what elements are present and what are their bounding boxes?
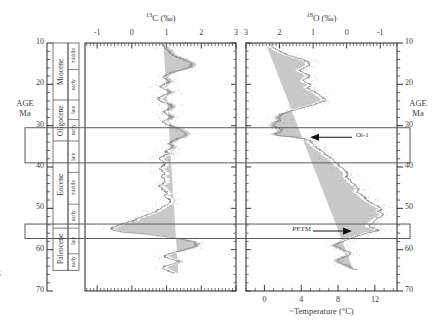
right-data-point <box>311 83 312 84</box>
right-data-point <box>365 233 366 234</box>
age-axis-title-right-1: AGE <box>400 99 436 108</box>
left-data-point <box>191 66 192 67</box>
right-data-point <box>385 231 386 232</box>
right-data-point <box>297 58 298 59</box>
right-data-point <box>356 173 357 174</box>
left-data-point <box>196 239 197 240</box>
right-data-point <box>352 186 353 187</box>
left-data-point <box>174 174 175 175</box>
left-data-point <box>202 241 203 242</box>
right-data-point <box>338 257 339 258</box>
left-data-point <box>152 208 153 209</box>
left-data-point <box>163 170 164 171</box>
left-data-point <box>168 106 169 107</box>
right-data-point <box>290 108 291 109</box>
left-data-point <box>185 69 186 70</box>
right-data-point <box>370 230 371 231</box>
age-tick-label-70: 70 <box>26 286 44 294</box>
right-data-point <box>362 200 363 201</box>
left-data-point <box>170 50 171 51</box>
left-data-point <box>136 217 137 218</box>
temp-tick-label-3: 12 <box>366 296 384 304</box>
left-data-point <box>169 195 170 196</box>
left-data-point <box>169 144 170 145</box>
left-data-point <box>136 220 137 221</box>
left-x-tick-label-1: 0 <box>123 29 141 37</box>
left-data-point <box>164 177 165 178</box>
left-data-point <box>166 206 167 207</box>
left-data-point <box>167 236 168 237</box>
right-data-point <box>293 107 294 108</box>
right-data-point <box>365 202 366 203</box>
left-data-point <box>179 149 180 150</box>
left-x-tick-label-2: 1 <box>158 29 176 37</box>
right-data-point <box>368 235 369 236</box>
left-data-point <box>176 53 177 54</box>
left-data-point <box>181 147 182 148</box>
right-data-point <box>351 265 352 266</box>
right-data-point <box>304 90 305 91</box>
left-data-point <box>171 191 172 192</box>
right-data-point <box>364 189 365 190</box>
right-data-point <box>286 116 287 117</box>
left-data-point <box>157 86 158 87</box>
left-data-point <box>192 66 193 67</box>
right-data-point <box>315 147 316 148</box>
left-data-point <box>200 247 201 248</box>
right-x-tick-label-2: 1 <box>304 29 322 37</box>
epoch-label-paleocene: Paleocene <box>57 227 65 271</box>
left-data-point <box>165 45 166 46</box>
left-data-point <box>147 211 148 212</box>
left-data-point <box>188 247 189 248</box>
right-data-point <box>314 60 315 61</box>
left-data-point <box>167 101 168 102</box>
right-data-point <box>309 91 310 92</box>
right-data-point <box>311 89 312 90</box>
right-data-point <box>322 98 323 99</box>
right-data-point <box>359 186 360 187</box>
right-data-point <box>316 61 317 62</box>
right-data-point <box>353 194 354 195</box>
right-data-point <box>350 258 351 259</box>
left-data-point <box>153 123 154 124</box>
left-data-point <box>155 150 156 151</box>
left-data-point <box>169 164 170 165</box>
right-data-point <box>302 56 303 57</box>
right-data-point <box>316 79 317 80</box>
left-data-point <box>189 64 190 65</box>
age-axis-title-left-1: AGE <box>8 99 42 108</box>
left-data-point <box>165 235 166 236</box>
right-data-point <box>282 129 283 130</box>
right-data-point <box>298 63 299 64</box>
left-data-point <box>173 114 174 115</box>
left-data-point <box>157 166 158 167</box>
left-data-point <box>187 241 188 242</box>
left-data-point <box>168 47 169 48</box>
right-data-point <box>281 54 282 55</box>
left-data-point <box>182 131 183 132</box>
left-data-point <box>173 126 174 127</box>
left-data-point <box>132 222 133 223</box>
right-data-point <box>390 230 391 231</box>
right-data-point <box>357 234 358 235</box>
right-data-point <box>364 221 365 222</box>
age-tick-label-40: 40 <box>26 162 44 170</box>
right-data-point <box>276 124 277 125</box>
left-data-point <box>170 254 171 255</box>
left-data-point <box>158 235 159 236</box>
right-data-point <box>344 239 345 240</box>
left-data-point <box>176 129 177 130</box>
right-data-point <box>290 119 291 120</box>
right-data-point <box>308 88 309 89</box>
left-data-point <box>173 110 174 111</box>
left-data-point <box>171 110 172 111</box>
right-data-point <box>295 111 296 112</box>
left-data-point <box>103 228 104 229</box>
right-data-point <box>364 228 365 229</box>
left-data-point <box>159 188 160 189</box>
right-data-point <box>342 256 343 257</box>
left-data-point <box>174 47 175 48</box>
right-data-point <box>381 225 382 226</box>
left-data-point <box>172 255 173 256</box>
left-data-point <box>168 120 169 121</box>
